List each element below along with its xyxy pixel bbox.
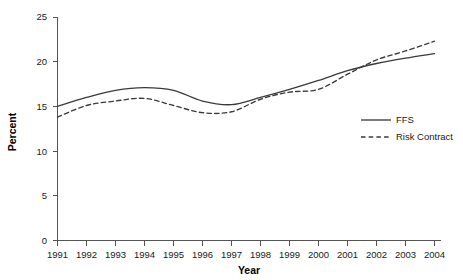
y-tick-label: 15	[36, 101, 47, 112]
legend-label-risk-contract: Risk Contract	[396, 131, 453, 142]
x-tick-label: 1991	[47, 249, 68, 260]
chart-legend: FFSRisk Contract	[361, 114, 453, 142]
legend-label-ffs: FFS	[396, 114, 414, 125]
x-axis: 1991199219931994199519961997199819992000…	[47, 241, 445, 277]
x-tick-label: 1992	[76, 249, 97, 260]
chart-page: 0510152025 Percent 199119921993199419951…	[0, 0, 463, 280]
x-axis-tick-labels: 1991199219931994199519961997199819992000…	[47, 249, 445, 260]
y-tick-label: 10	[36, 146, 47, 157]
x-axis-ticks	[58, 241, 435, 247]
y-axis-ticks	[53, 17, 58, 241]
x-tick-label: 1998	[250, 249, 271, 260]
x-tick-label: 2004	[424, 249, 445, 260]
y-tick-label: 5	[42, 190, 47, 201]
y-tick-label: 20	[36, 56, 47, 67]
x-tick-label: 1999	[279, 249, 300, 260]
x-tick-label: 1993	[105, 249, 126, 260]
x-tick-label: 1995	[163, 249, 184, 260]
y-tick-label: 0	[42, 235, 47, 246]
series-line-ffs	[58, 54, 435, 107]
series-line-risk-contract	[58, 41, 435, 117]
y-axis-title: Percent	[6, 112, 18, 151]
y-tick-label: 25	[36, 11, 47, 22]
x-tick-label: 1997	[221, 249, 242, 260]
y-axis: 0510152025 Percent	[6, 11, 58, 246]
line-chart: 0510152025 Percent 199119921993199419951…	[0, 0, 463, 280]
x-tick-label: 1996	[192, 249, 213, 260]
x-tick-label: 1994	[134, 249, 155, 260]
x-tick-label: 2003	[395, 249, 416, 260]
x-tick-label: 2001	[337, 249, 358, 260]
y-axis-tick-labels: 0510152025	[36, 11, 47, 246]
x-axis-title: Year	[238, 264, 260, 276]
data-series-group	[58, 41, 435, 117]
x-tick-label: 2000	[308, 249, 329, 260]
x-tick-label: 2002	[366, 249, 387, 260]
